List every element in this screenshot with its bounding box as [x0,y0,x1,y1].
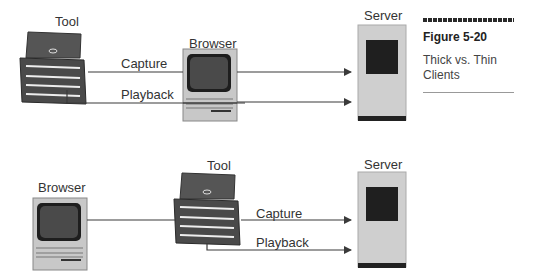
tool-label: Tool [55,14,79,29]
playback-label-bottom: Playback [256,235,309,250]
capture-label: Capture [121,56,167,71]
caption-dotted-rule [423,18,514,22]
server-icon [358,25,406,121]
caption-divider [423,92,514,93]
playback-label: Playback [121,87,174,102]
browser-label-bottom: Browser [38,180,86,195]
tool-label-bottom: Tool [207,158,231,173]
capture-label-bottom: Capture [256,206,302,221]
server-label: Server [364,8,402,23]
server-label-bottom: Server [364,157,402,172]
toolbox-icon [20,32,86,104]
browser-computer-icon [183,49,237,121]
server-icon-bottom [358,172,406,268]
browser-label: Browser [189,36,237,51]
toolbox-icon-bottom [174,173,240,245]
figure-number: Figure 5-20 [423,30,487,44]
browser-computer-icon-bottom [33,198,87,270]
figure-title: Thick vs. Thin Clients [423,53,518,83]
